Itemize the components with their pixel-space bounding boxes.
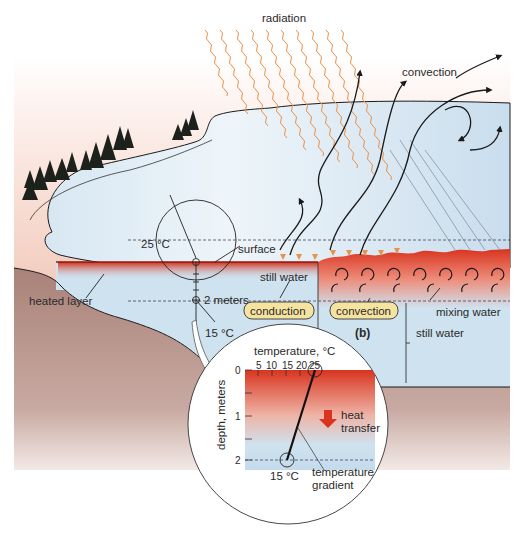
label-radiation: radiation bbox=[262, 12, 306, 24]
inset-x-tick-15: 15 bbox=[282, 360, 294, 371]
inset-y-axis-label: depth, meters bbox=[215, 379, 227, 450]
convection-pill-label: convection bbox=[336, 305, 391, 317]
inset-y-tick-0: 0 bbox=[235, 365, 241, 376]
label-convection-air: convection bbox=[402, 66, 457, 78]
inset-gradient-label-1: temperature bbox=[312, 466, 374, 478]
label-temp-top: 25 °C bbox=[141, 238, 170, 250]
label-still-water-b: still water bbox=[416, 327, 464, 339]
inset-x-tick-5: 5 bbox=[256, 360, 262, 371]
label-heated-layer: heated layer bbox=[29, 295, 92, 307]
conduction-pill-label: conduction bbox=[250, 305, 306, 317]
label-panel-b: (b) bbox=[355, 326, 370, 340]
label-two-meters: 2 meters bbox=[204, 294, 249, 306]
inset-y-tick-1: 1 bbox=[235, 411, 241, 422]
inset-x-tick-10: 10 bbox=[266, 360, 278, 371]
inset-x-tick-20: 20 bbox=[296, 360, 308, 371]
inset-x-axis-label: temperature, °C bbox=[254, 345, 335, 357]
label-temp-bottom: 15 °C bbox=[205, 327, 234, 339]
inset-gradient-label-2: gradient bbox=[312, 479, 354, 491]
inset-x-tick-25: 25 bbox=[309, 360, 321, 371]
inset-y-tick-2: 2 bbox=[235, 455, 241, 466]
label-mixing-water: mixing water bbox=[436, 306, 501, 318]
inset-heat-label-2: transfer bbox=[341, 422, 380, 434]
label-surface: surface bbox=[238, 243, 276, 255]
inset-heat-label-1: heat bbox=[341, 409, 364, 421]
lake-heat-transfer-diagram: radiation convection 25 °C surface still… bbox=[0, 0, 528, 534]
label-still-water-a: still water bbox=[260, 271, 308, 283]
inset-bottom-temp: 15 °C bbox=[270, 470, 299, 482]
